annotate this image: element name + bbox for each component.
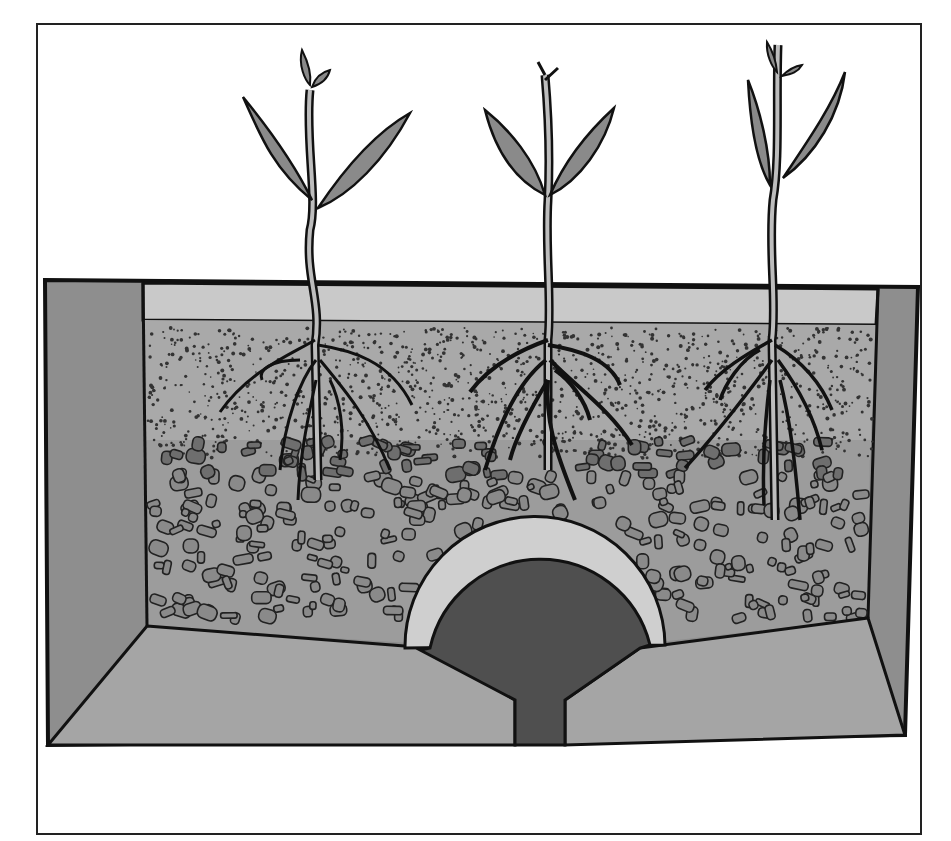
mulch-top-layer — [143, 283, 878, 325]
planter-cross-section-diagram — [0, 0, 951, 841]
